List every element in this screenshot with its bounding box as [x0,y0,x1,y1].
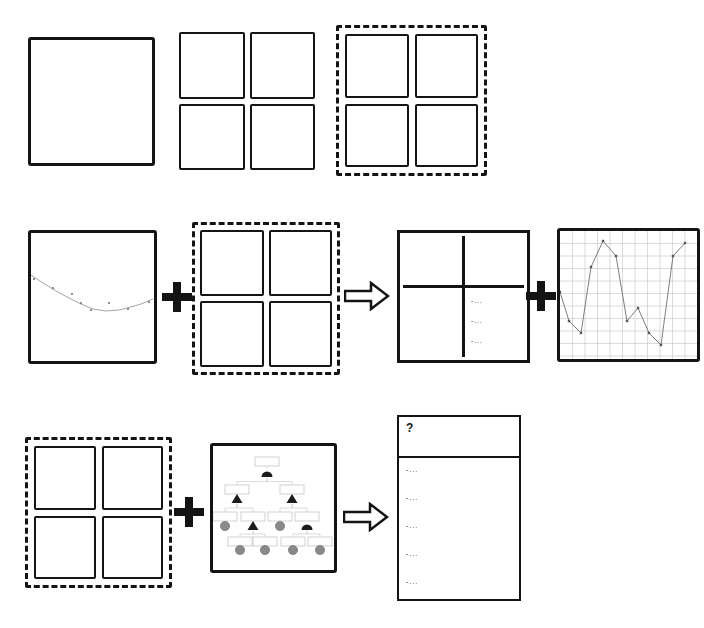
plus-icon [526,281,556,311]
list-item: -... [406,578,519,606]
grid-cell [102,516,164,580]
panel-pattern-quadrants: -... -... -... [397,230,530,363]
list-item: -... [406,522,519,550]
list-item: -... [406,550,519,578]
list-item: -... [406,466,519,494]
scatter-plot [31,233,154,361]
list-item: -... [471,337,524,357]
panel-grid-2x2-dashed [336,25,487,176]
list-item: -... [471,317,524,337]
grid-cell [102,446,164,510]
grid-cell [415,104,479,168]
plus-icon [174,497,204,527]
figure-canvas: -... -... -... ? -... -... -... -... [0,0,704,628]
list-item: -... [406,494,519,522]
panel-single-frame [28,37,155,166]
grid-cell [200,301,264,367]
pattern-stipple-dots [403,288,462,357]
grid-cell [250,104,316,171]
pattern-diagonal-hatch [403,236,462,285]
grid-cell [200,230,264,296]
grid-cell [34,516,96,580]
grid-cell [269,301,333,367]
list-item: -... [471,297,524,317]
question-mark-header: ? [399,417,519,458]
panel-line-chart [557,228,700,362]
right-arrow-icon [343,502,389,532]
grid-cell [250,32,316,99]
line-chart [560,231,697,359]
pattern-fish-scales [465,236,524,285]
right-arrow-icon [344,281,390,311]
grid-cell [34,446,96,510]
panel-tree-diagram [210,443,337,573]
panel-scatter-curve [28,230,157,364]
panel-grid-2x2 [179,32,315,170]
panel-grid-2x2-dashed [192,222,340,375]
panel-result-list: ? -... -... -... -... -... [397,415,521,601]
grid-cell [179,32,245,99]
grid-cell [345,104,409,168]
tree-diagram [213,446,334,570]
plus-icon [162,282,192,312]
result-list: -... -... -... -... -... [399,458,519,606]
grid-cell [269,230,333,296]
grid-cell [345,34,409,98]
grid-cell [415,34,479,98]
panel-grid-2x2-dashed [25,437,172,588]
pattern-text-list: -... -... -... [465,288,524,357]
grid-cell [179,104,245,171]
